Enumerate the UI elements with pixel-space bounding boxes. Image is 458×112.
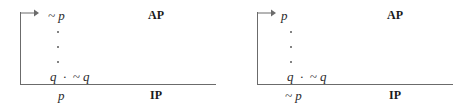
ellipsis-dot: [57, 46, 59, 48]
conclusion-formula: p: [58, 89, 65, 102]
inferred-premise-tag: IP: [389, 89, 401, 101]
conclusion-rule-line: [257, 84, 453, 85]
conclusion-rule-line: [20, 84, 216, 85]
ellipsis-dot: [290, 46, 292, 48]
ellipsis-dot: [57, 61, 59, 63]
assumed-premise-tag: AP: [148, 9, 164, 21]
proof-figure: ~ p q · ~ q p AP IP p q · ~ q: [0, 0, 458, 112]
conclusion-formula: ~ p: [285, 89, 302, 102]
proof-panel-right: p q · ~ q ~ p AP IP: [229, 0, 458, 112]
assumed-premise-tag: AP: [387, 9, 403, 21]
proof-panel-left: ~ p q · ~ q p AP IP: [0, 0, 229, 112]
contradiction-formula: q · ~ q: [287, 70, 327, 83]
contradiction-formula: q · ~ q: [50, 70, 90, 83]
ellipsis-dot: [57, 31, 59, 33]
scope-line: [257, 12, 258, 85]
assumption-formula: p: [281, 9, 288, 22]
assumption-arrow-icon: [257, 8, 277, 19]
ellipsis-dot: [290, 61, 292, 63]
scope-line: [20, 12, 21, 85]
inferred-premise-tag: IP: [150, 89, 162, 101]
assumption-arrow-icon: [20, 8, 40, 19]
ellipsis-dot: [290, 31, 292, 33]
assumption-formula: ~ p: [48, 9, 65, 22]
